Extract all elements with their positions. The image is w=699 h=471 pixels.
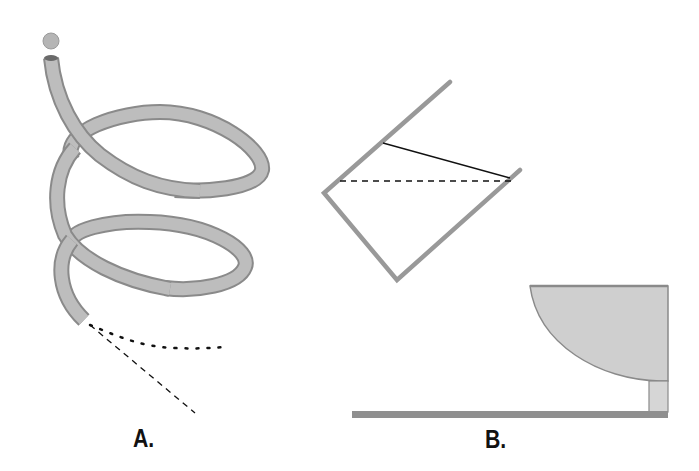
panel-b-bowl bbox=[352, 286, 668, 418]
dotted-curved-path bbox=[90, 325, 226, 348]
panel-a-label: A. bbox=[133, 424, 154, 453]
solid-surface-line bbox=[383, 143, 510, 178]
panel-a-spiral-tube bbox=[43, 33, 262, 413]
floor-surface bbox=[352, 411, 668, 418]
panel-b-label: B. bbox=[485, 425, 506, 454]
panel-b-tilted-container bbox=[324, 82, 520, 280]
bowl-stand bbox=[649, 381, 668, 412]
dashed-straight-path bbox=[90, 325, 195, 413]
figure-canvas bbox=[0, 0, 699, 471]
tube-front-strand bbox=[51, 58, 200, 320]
bowl-shape bbox=[530, 286, 668, 381]
ball-icon bbox=[43, 33, 59, 49]
tube-opening bbox=[44, 55, 58, 61]
